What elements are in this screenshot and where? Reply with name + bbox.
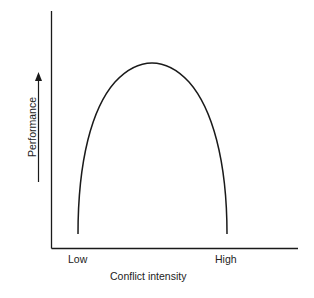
x-axis-label: Conflict intensity bbox=[110, 270, 186, 282]
arrowhead-icon bbox=[35, 72, 42, 81]
x-tick-high: High bbox=[215, 253, 237, 265]
x-tick-low: Low bbox=[68, 253, 87, 265]
y-axis-label: Performance bbox=[26, 97, 38, 157]
performance-curve bbox=[78, 63, 227, 234]
inverted-u-diagram bbox=[0, 0, 314, 298]
